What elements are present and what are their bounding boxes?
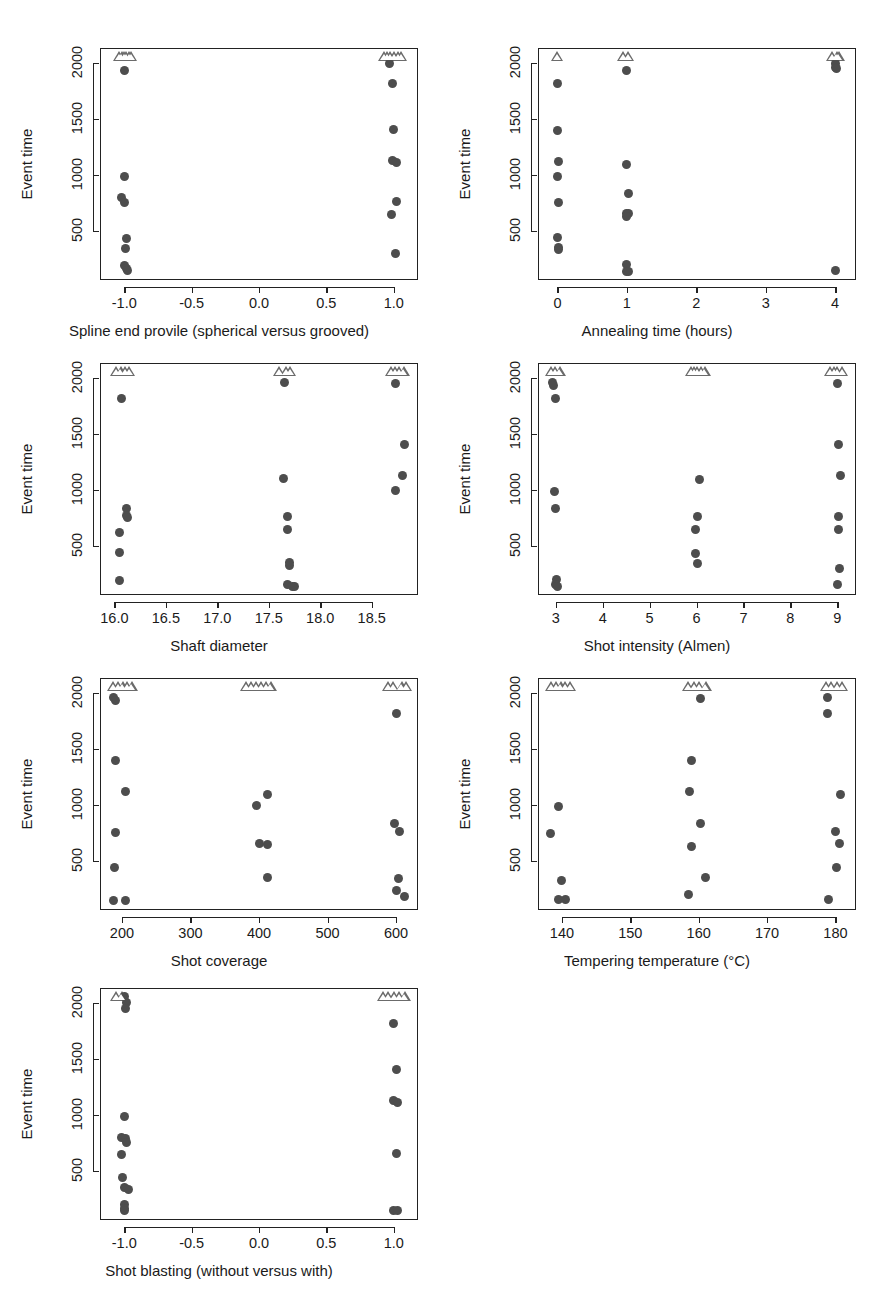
x-tick: [603, 602, 604, 608]
x-tick: [326, 287, 327, 293]
data-point-event: [115, 528, 124, 537]
data-point-event: [394, 874, 403, 883]
x-tick-label: -1.0: [94, 1235, 154, 1251]
data-point-censored: [836, 681, 848, 691]
data-point-event: [836, 790, 845, 799]
data-point-event: [554, 245, 563, 254]
x-tick: [630, 917, 631, 923]
data-point-event: [400, 892, 409, 901]
y-tick-label: 1000: [507, 152, 523, 196]
x-tick: [743, 602, 744, 608]
x-tick: [259, 917, 260, 923]
y-axis-line: [93, 693, 94, 861]
x-tick: [767, 917, 768, 923]
plot-frame: [100, 678, 418, 910]
y-tick: [531, 63, 537, 64]
x-tick-label: 1.0: [364, 295, 424, 311]
data-point-censored: [699, 366, 711, 376]
x-tick-label: 400: [229, 925, 289, 941]
y-tick-label: 1000: [69, 1092, 85, 1136]
data-point-event: [280, 378, 289, 387]
x-tick: [328, 917, 329, 923]
data-point-event: [395, 827, 404, 836]
x-axis-line: [114, 602, 371, 603]
x-axis-label: Tempering temperature (°C): [438, 952, 876, 969]
y-tick: [93, 119, 99, 120]
x-tick: [166, 602, 167, 608]
x-tick-label: 0.5: [296, 1235, 356, 1251]
y-axis-label: Event time: [18, 719, 36, 869]
data-point-event: [391, 249, 400, 258]
data-point-event: [693, 559, 702, 568]
x-tick: [697, 602, 698, 608]
data-point-censored: [836, 366, 848, 376]
y-tick: [93, 546, 99, 547]
y-tick-label: 1500: [69, 96, 85, 140]
data-point-event: [121, 787, 130, 796]
multi-panel-scatter-figure: 500100015002000-1.0-0.50.00.51.0Event ti…: [0, 0, 876, 1291]
data-point-event: [391, 379, 400, 388]
y-tick-label: 500: [69, 523, 85, 567]
y-tick: [93, 693, 99, 694]
x-tick-label: 150: [600, 925, 660, 941]
y-axis-label-text: Event time: [456, 719, 473, 869]
y-axis-label: Event time: [18, 1029, 36, 1179]
data-point-censored: [126, 681, 138, 691]
x-tick: [114, 602, 115, 608]
x-tick-label: 9: [807, 610, 867, 626]
x-tick: [766, 287, 767, 293]
y-tick: [531, 693, 537, 694]
x-tick: [124, 287, 125, 293]
data-point-event: [122, 234, 131, 243]
x-tick-label: 1.0: [364, 1235, 424, 1251]
data-point-event: [834, 512, 843, 521]
data-point-censored: [833, 51, 845, 61]
x-tick: [650, 602, 651, 608]
data-point-event: [123, 266, 132, 275]
y-tick-label: 2000: [507, 40, 523, 84]
plot-frame: [100, 48, 418, 280]
scatter-panel-2: 50010001500200001234Event timeAnnealing …: [438, 20, 876, 335]
data-point-event: [549, 381, 558, 390]
y-tick-label: 500: [507, 838, 523, 882]
data-point-event: [111, 696, 120, 705]
data-point-censored: [265, 681, 277, 691]
x-tick-label: 3: [736, 295, 796, 311]
y-tick: [93, 378, 99, 379]
y-tick: [93, 175, 99, 176]
x-tick: [372, 602, 373, 608]
data-point-event: [110, 863, 119, 872]
data-point-censored: [398, 366, 410, 376]
data-point-event: [121, 896, 130, 905]
data-point-censored: [400, 681, 412, 691]
x-tick-label: -0.5: [162, 295, 222, 311]
y-tick-label: 2000: [507, 355, 523, 399]
x-tick: [557, 287, 558, 293]
scatter-panel-5: 500100015002000200300400500600Event time…: [0, 650, 438, 965]
y-tick: [93, 749, 99, 750]
y-tick: [93, 805, 99, 806]
y-tick: [531, 861, 537, 862]
data-point-event: [832, 64, 841, 73]
data-point-event: [554, 157, 563, 166]
data-point-event: [290, 582, 299, 591]
data-point-event: [624, 189, 633, 198]
data-point-event: [283, 512, 292, 521]
x-tick-label: 0: [527, 295, 587, 311]
y-tick-label: 2000: [69, 670, 85, 714]
y-tick: [531, 175, 537, 176]
data-point-event: [120, 1206, 129, 1215]
y-tick-label: 1000: [507, 782, 523, 826]
x-tick-label: 0.5: [296, 295, 356, 311]
data-point-censored: [125, 51, 137, 61]
x-tick-label: 300: [160, 925, 220, 941]
x-tick-label: 500: [298, 925, 358, 941]
y-tick: [93, 231, 99, 232]
y-axis-line: [93, 63, 94, 231]
data-point-event: [263, 873, 272, 882]
data-point-event: [696, 694, 705, 703]
data-point-event: [823, 693, 832, 702]
x-tick: [790, 602, 791, 608]
data-point-censored: [284, 366, 296, 376]
y-tick: [531, 749, 537, 750]
